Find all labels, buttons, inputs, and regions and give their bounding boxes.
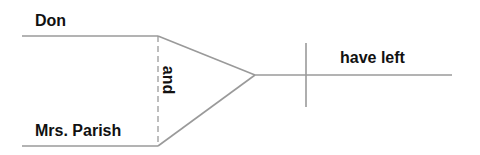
sentence-diagram: Don Mrs. Parish and have left: [0, 0, 480, 155]
subject-word-don: Don: [35, 13, 66, 29]
subject-word-mrs-parish: Mrs. Parish: [35, 123, 121, 139]
conjunction-word-and: and: [160, 66, 176, 94]
verb-word-have-left: have left: [340, 50, 405, 66]
